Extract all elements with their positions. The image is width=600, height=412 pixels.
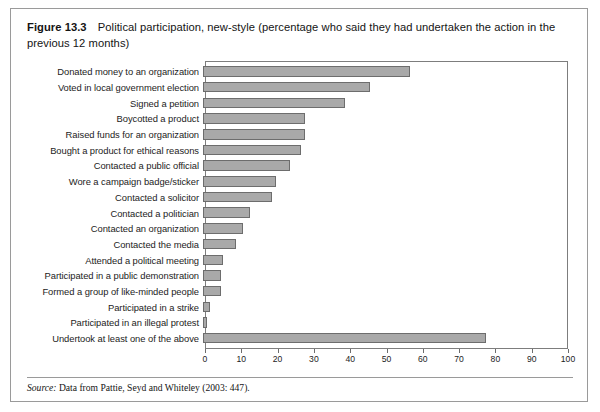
x-tick-label: 0 (203, 354, 208, 364)
category-label: Attended a political meeting (35, 255, 203, 266)
bar (203, 333, 486, 344)
bar (203, 82, 370, 93)
figure-number: 13.3 (65, 21, 95, 33)
bar-track (203, 111, 568, 127)
category-label: Contacted the media (35, 239, 203, 250)
bar-track (203, 237, 568, 253)
x-tick (205, 349, 206, 353)
chart-row: Bought a product for ethical reasons (35, 142, 568, 158)
bar (203, 113, 305, 124)
chart-row: Boycotted a product (35, 111, 568, 127)
chart-row: Undertook at least one of the above (35, 331, 568, 347)
x-tick (532, 349, 533, 353)
category-label: Donated money to an organization (35, 66, 203, 77)
chart-row: Contacted a solicitor (35, 190, 568, 206)
bar-chart: Donated money to an organizationVoted in… (35, 61, 575, 371)
category-label: Signed a petition (35, 98, 203, 109)
category-label: Raised funds for an organization (35, 129, 203, 140)
x-tick-label: 20 (273, 354, 283, 364)
chart-row: Participated in a public demonstration (35, 268, 568, 284)
bar-track (203, 190, 568, 206)
category-label: Undertook at least one of the above (35, 333, 203, 344)
bar-track (203, 299, 568, 315)
x-tick-label: 40 (345, 354, 355, 364)
chart-row: Contacted a politician (35, 205, 568, 221)
chart-row: Participated in an illegal protest (35, 315, 568, 331)
category-label: Contacted an organization (35, 223, 203, 234)
bar (203, 145, 301, 156)
category-label: Contacted a public official (35, 160, 203, 171)
bar-track (203, 127, 568, 143)
bar (203, 192, 272, 203)
category-label: Wore a campaign badge/sticker (35, 176, 203, 187)
chart-row: Contacted a public official (35, 158, 568, 174)
x-tick (459, 349, 460, 353)
x-tick (568, 349, 569, 353)
category-label: Boycotted a product (35, 113, 203, 124)
figure-caption-text: Political participation, new-style (perc… (27, 21, 555, 49)
bar (203, 223, 243, 234)
bar-rows: Donated money to an organizationVoted in… (35, 64, 568, 346)
category-label: Voted in local government election (35, 82, 203, 93)
x-tick (241, 349, 242, 353)
chart-row: Raised funds for an organization (35, 127, 568, 143)
x-tick (423, 349, 424, 353)
bar-track (203, 158, 568, 174)
x-tick-label: 10 (237, 354, 247, 364)
bar-track (203, 315, 568, 331)
chart-row: Formed a group of like-minded people (35, 284, 568, 300)
bar (203, 66, 410, 77)
bar (203, 207, 250, 218)
category-label: Formed a group of like-minded people (35, 286, 203, 297)
category-label: Participated in a public demonstration (35, 270, 203, 281)
x-tick-label: 100 (561, 354, 575, 364)
chart-row: Contacted the media (35, 237, 568, 253)
bar-track (203, 174, 568, 190)
chart-row: Signed a petition (35, 95, 568, 111)
bar-track (203, 268, 568, 284)
chart-row: Contacted an organization (35, 221, 568, 237)
chart-row: Attended a political meeting (35, 252, 568, 268)
bar-track (203, 142, 568, 158)
x-tick-label: 90 (527, 354, 537, 364)
source-text: Data from Pattie, Seyd and Whiteley (200… (59, 382, 250, 393)
chart-row: Donated money to an organization (35, 64, 568, 80)
category-label: Contacted a politician (35, 208, 203, 219)
bar (203, 129, 305, 140)
x-tick-label: 30 (309, 354, 319, 364)
bar (203, 270, 221, 281)
bar (203, 302, 210, 313)
bar-track (203, 284, 568, 300)
x-tick-label: 70 (454, 354, 464, 364)
bar-track (203, 64, 568, 80)
figure-caption: Figure 13.3 Political participation, new… (27, 19, 567, 51)
bar-track (203, 221, 568, 237)
chart-row: Voted in local government election (35, 80, 568, 96)
x-tick (387, 349, 388, 353)
bar (203, 176, 276, 187)
x-tick (278, 349, 279, 353)
bar-track (203, 205, 568, 221)
source-prefix: Source: (27, 382, 56, 393)
source-divider (27, 377, 573, 378)
category-label: Bought a product for ethical reasons (35, 145, 203, 156)
category-label: Participated in an illegal protest (35, 317, 203, 328)
x-tick (495, 349, 496, 353)
x-tick-label: 60 (418, 354, 428, 364)
chart-row: Participated in a strike (35, 299, 568, 315)
chart-row: Wore a campaign badge/sticker (35, 174, 568, 190)
bar (203, 255, 223, 266)
bar-track (203, 95, 568, 111)
category-label: Contacted a solicitor (35, 192, 203, 203)
bar (203, 160, 290, 171)
category-label: Participated in a strike (35, 302, 203, 313)
bar-track (203, 331, 568, 347)
bar-track (203, 80, 568, 96)
x-tick-label: 50 (382, 354, 392, 364)
bar (203, 286, 221, 297)
figure-container: Figure 13.3 Political participation, new… (10, 8, 588, 402)
bar (203, 239, 236, 250)
x-tick (350, 349, 351, 353)
bar (203, 317, 207, 328)
bar (203, 98, 345, 109)
